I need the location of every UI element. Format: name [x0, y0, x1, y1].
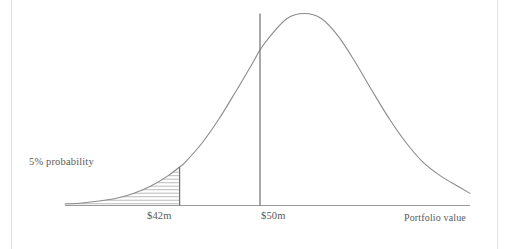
x-tick-label-50m: $50m	[261, 210, 286, 222]
hatch-lines	[55, 169, 182, 204]
tail-hatch-group	[55, 169, 182, 204]
x-tick-label-42m: $42m	[147, 210, 172, 222]
bell-curve-line	[65, 14, 470, 204]
x-axis-title: Portfolio value	[404, 212, 466, 223]
normal-distribution-figure: 5% probability $42m $50m Portfolio value	[0, 0, 507, 249]
tail-probability-label: 5% probability	[29, 156, 94, 168]
